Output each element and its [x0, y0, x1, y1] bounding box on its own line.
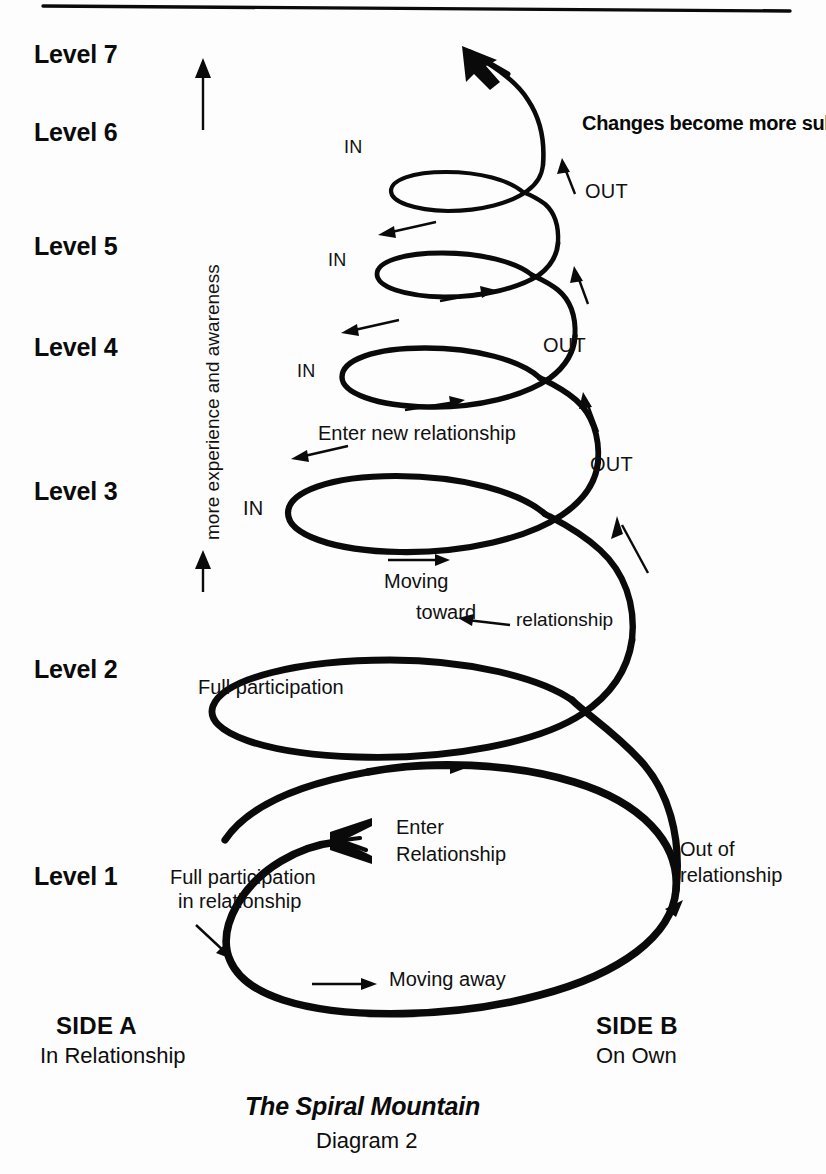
axis-caption: more experience and awareness — [202, 264, 224, 540]
annotation-moving-away: Moving away — [389, 968, 506, 990]
direction-arrow-level-5-right — [440, 286, 496, 301]
figure-subtitle: Diagram 2 — [316, 1128, 417, 1154]
spiral-turn-level-6-loop — [391, 165, 543, 211]
spiral-rise-b-level-1-2 — [572, 700, 677, 890]
spiral-turn-level-2-loop — [212, 640, 632, 757]
peak-arrow-barb-icon — [470, 52, 508, 74]
annotation-enter-relationship-line2: Relationship — [396, 843, 506, 865]
side-a-subtitle: In Relationship — [40, 1043, 186, 1069]
annotation-moving: Moving — [384, 570, 448, 592]
direction-arrow-out-of-relationship-up — [640, 900, 683, 950]
level-label-5: Level 5 — [34, 232, 117, 261]
level-label-7: Level 7 — [34, 40, 117, 69]
annotation-out-of-relationship-line1: Out of — [680, 838, 734, 860]
side-b-heading: SIDE B — [596, 1012, 678, 1040]
direction-arrow-level-3-up — [611, 516, 648, 573]
annotation-full-participation-in-relationship-line2: in relationship — [178, 890, 301, 912]
direction-arrow-level-4-left — [341, 320, 399, 336]
level-label-6: Level 6 — [34, 118, 117, 147]
side-a-heading: SIDE A — [56, 1012, 137, 1040]
annotation-enter-new-relationship: Enter new relationship — [318, 422, 516, 444]
in-tag-level-5: IN — [328, 250, 347, 271]
in-tag-level-4: IN — [297, 361, 316, 382]
spiral-rise-b-level-4-5 — [532, 275, 575, 336]
axis-arrow-bottom-icon — [195, 550, 211, 592]
spiral-turn-level-5-loop — [377, 243, 558, 297]
direction-arrow-level-1-down — [196, 925, 234, 960]
spiral-rise-b-level-3-4 — [540, 378, 598, 462]
out-tag-level-6: OUT — [585, 180, 628, 203]
spiral-peak-exit — [486, 62, 543, 165]
annotation-full-participation: Full participation — [198, 676, 344, 698]
spiral-turn-level-4-loop — [342, 336, 575, 407]
top-rule-icon — [43, 6, 790, 11]
annotation-full-participation-in-relationship-line1: Full participation — [170, 866, 316, 888]
direction-arrow-moving-away-right — [312, 978, 377, 990]
level-label-3: Level 3 — [34, 477, 117, 506]
in-tag-level-6: IN — [344, 137, 363, 158]
direction-arrow-level-4-up — [579, 392, 598, 432]
diagram-page: .ink { fill: none; stroke: #0a0a0a; stro… — [0, 0, 826, 1174]
direction-arrow-level-2-right — [404, 762, 466, 774]
spiral-rise-b-level-5-6 — [523, 192, 558, 243]
enter-relationship-arrowhead-icon — [330, 818, 372, 864]
annotation-toward: toward — [416, 601, 476, 623]
axis-arrow-top-icon — [195, 58, 211, 130]
direction-arrow-level-3-left — [291, 446, 348, 462]
annotation-enter-relationship-line1: Enter — [396, 816, 444, 838]
level-label-2: Level 2 — [34, 655, 117, 684]
level-label-1: Level 1 — [34, 862, 117, 891]
side-b-subtitle: On Own — [596, 1043, 677, 1069]
direction-arrow-level-4-right — [405, 396, 465, 410]
annotation-out-of-relationship-line2: relationship — [680, 864, 782, 886]
spiral-turn-level-2 — [225, 772, 368, 840]
figure-title: The Spiral Mountain — [245, 1092, 480, 1121]
spiral-turn-level-3-loop — [288, 462, 598, 552]
in-tag-level-3: IN — [243, 497, 264, 520]
direction-arrow-level-5-left — [378, 222, 436, 238]
level-label-4: Level 4 — [34, 333, 117, 362]
annotation-relationship: relationship — [516, 609, 613, 630]
out-tag-level-5: OUT — [543, 334, 586, 357]
direction-arrow-level-5-up — [570, 266, 588, 304]
explanatory-note: Changes become more subtle, moving from … — [582, 112, 810, 135]
peak-arrowhead-icon — [462, 46, 500, 90]
direction-arrow-level-3-right — [388, 554, 450, 566]
direction-arrow-level-6-up — [557, 158, 575, 194]
out-tag-level-4: OUT — [590, 453, 633, 476]
